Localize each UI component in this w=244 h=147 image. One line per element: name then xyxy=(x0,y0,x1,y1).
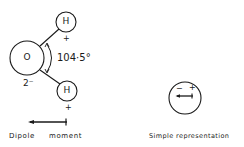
hydrogen-bottom-charge: + xyxy=(65,103,72,112)
simple-arrowhead xyxy=(176,94,181,97)
arc-arrowhead-top xyxy=(45,43,49,47)
hydrogen-bottom-symbol: H xyxy=(62,85,72,95)
hydrogen-top-symbol: H xyxy=(61,16,71,26)
simple-representation-label: Simple representation xyxy=(149,132,229,140)
bond-angle-label: 104·5° xyxy=(57,52,91,63)
bond-top xyxy=(40,29,59,46)
hydrogen-top-charge: + xyxy=(63,34,70,43)
simple-representation-circle xyxy=(169,82,201,114)
oxygen-symbol: O xyxy=(22,52,32,62)
dipole-arrowhead xyxy=(28,120,34,124)
diagram-lines xyxy=(0,0,244,147)
dipole-label-dipole: Dipole xyxy=(9,132,35,140)
dipole-label-moment: moment xyxy=(49,132,82,140)
bond-bottom xyxy=(40,70,60,84)
arc-arrowhead-bottom xyxy=(45,69,49,73)
simple-plus-sign: + xyxy=(189,83,196,92)
oxygen-charge: 2⁻ xyxy=(23,78,33,88)
bond-angle-arc xyxy=(47,44,52,72)
simple-minus-sign: − xyxy=(176,84,183,93)
